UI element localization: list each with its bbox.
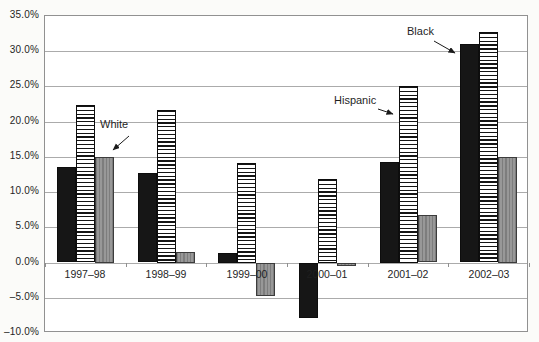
- annotation-label-white: White: [100, 118, 128, 130]
- y-axis-tick-label: 5.0%: [0, 220, 39, 232]
- category-axis-tick: [287, 263, 288, 267]
- bar-white-2002-03: [498, 157, 517, 263]
- x-axis-category-label: 1999–00: [212, 268, 282, 280]
- bar-hispanic-2002-03: [479, 32, 498, 262]
- y-axis-tick-label: –10.0%: [0, 326, 39, 338]
- bar-hispanic-2001-02: [399, 86, 418, 263]
- bar-black-1997-98: [57, 167, 76, 262]
- gridline: [45, 86, 527, 87]
- bar-chart-figure: 1997–981998–991999–002000–012001–022002–…: [0, 0, 539, 342]
- x-axis-category-label: 2001–02: [373, 268, 443, 280]
- y-axis-tick-label: 35.0%: [0, 9, 39, 21]
- bar-white-2001-02: [418, 215, 437, 262]
- category-axis-tick: [45, 263, 46, 267]
- category-axis-tick: [206, 263, 207, 267]
- gridline: [45, 263, 527, 264]
- bar-black-1999-00: [218, 253, 237, 263]
- bar-hispanic-1999-00: [237, 163, 256, 263]
- x-axis-category-label: 2002–03: [454, 268, 524, 280]
- plot-area: 1997–981998–991999–002000–012001–022002–…: [44, 15, 528, 332]
- category-axis-tick: [126, 263, 127, 267]
- bar-white-2000-01: [337, 263, 356, 266]
- bar-white-1998-99: [176, 252, 195, 263]
- x-axis-category-label: 2000–01: [292, 268, 362, 280]
- bar-black-2001-02: [380, 162, 399, 263]
- category-axis-tick: [448, 263, 449, 267]
- gridline: [45, 192, 527, 193]
- bar-hispanic-1998-99: [157, 110, 176, 263]
- y-axis-tick-label: 10.0%: [0, 185, 39, 197]
- bar-white-1997-98: [95, 157, 114, 263]
- bar-hispanic-2000-01: [318, 179, 337, 263]
- annotation-label-black: Black: [407, 25, 434, 37]
- annotation-label-hispanic: Hispanic: [334, 94, 376, 106]
- bar-black-2002-03: [460, 44, 479, 262]
- bar-black-1998-99: [138, 173, 157, 262]
- x-axis-category-label: 1998–99: [131, 268, 201, 280]
- y-axis-tick-label: 0.0%: [0, 256, 39, 268]
- category-axis-tick: [529, 263, 530, 267]
- y-axis-tick-label: 25.0%: [0, 79, 39, 91]
- gridline: [45, 298, 527, 299]
- gridline: [45, 51, 527, 52]
- y-axis-tick-label: 30.0%: [0, 44, 39, 56]
- x-axis-category-label: 1997–98: [50, 268, 120, 280]
- bar-hispanic-1997-98: [76, 105, 95, 262]
- y-axis-tick-label: 15.0%: [0, 150, 39, 162]
- y-axis-tick-label: 20.0%: [0, 115, 39, 127]
- y-axis-tick-label: –5.0%: [0, 291, 39, 303]
- gridline: [45, 227, 527, 228]
- category-axis-tick: [368, 263, 369, 267]
- gridline: [45, 157, 527, 158]
